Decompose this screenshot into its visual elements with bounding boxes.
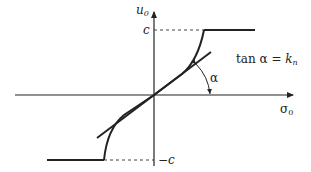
y-axis-label-sub: 0: [144, 9, 149, 18]
x-axis-label-main: σ: [280, 102, 288, 116]
tangent-equation: tan α = kn: [236, 53, 298, 67]
angle-label: α: [210, 72, 218, 84]
neg-c-level-label: −c: [158, 154, 175, 166]
y-axis-label: u0: [136, 4, 149, 18]
hysteresis-diagram: u0 c −c α tan α = kn σ0: [0, 0, 311, 172]
angle-arc: [196, 64, 210, 94]
equation-prefix: tan α =: [236, 52, 285, 66]
equation-var: k: [285, 52, 292, 66]
x-axis-label-sub: 0: [288, 108, 293, 117]
x-axis-label: σ0: [280, 103, 293, 117]
c-level-label: c: [143, 24, 150, 36]
diagram-canvas: [0, 0, 311, 172]
y-axis-label-main: u: [136, 3, 144, 17]
equation-sub: n: [293, 58, 298, 67]
